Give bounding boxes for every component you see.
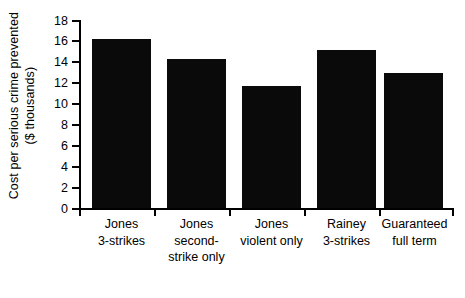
y-tick-label-12: 12 [54, 77, 68, 90]
y-tick-16: 16 [72, 40, 81, 42]
y-tick-14: 14 [72, 61, 81, 63]
y-tick-10: 10 [72, 103, 81, 105]
y-tick-2: 2 [72, 187, 81, 189]
y-tick-8: 8 [72, 124, 81, 126]
x-tick-1 [154, 208, 156, 216]
bar-jones-second-strike-only [167, 59, 226, 208]
bar-rainey-3-strikes [317, 50, 376, 208]
bar-guaranteed-full-term [384, 73, 443, 208]
plot-area: 0 2 4 6 8 10 12 14 16 18 [79, 20, 454, 210]
y-tick-label-6: 6 [61, 140, 68, 153]
y-tick-label-16: 16 [54, 35, 68, 48]
x-tick-2 [229, 208, 231, 216]
y-tick-6: 6 [72, 145, 81, 147]
y-tick-label-18: 18 [54, 15, 68, 28]
y-tick-4: 4 [72, 166, 81, 168]
x-label-line: full term [367, 233, 462, 250]
y-tick-label-10: 10 [54, 98, 68, 111]
x-tick-3 [304, 208, 306, 216]
y-tick-label-2: 2 [61, 182, 68, 195]
y-tick-12: 12 [72, 82, 81, 84]
x-label-guaranteed-full-term: Guaranteed full term [367, 216, 462, 249]
x-tick-5 [452, 208, 454, 216]
y-axis-title-line-2: ($ thousands) [23, 12, 39, 199]
bar-jones-violent-only [242, 86, 301, 208]
y-tick-18: 18 [72, 20, 81, 22]
bar-jones-3-strikes [92, 39, 151, 208]
x-label-line: Guaranteed [367, 216, 462, 233]
x-tick-0 [79, 208, 81, 216]
bar-chart-figure: Cost per serious crime prevented ($ thou… [0, 0, 465, 298]
y-tick-label-14: 14 [54, 56, 68, 69]
y-axis-line [79, 20, 81, 210]
y-tick-label-8: 8 [61, 119, 68, 132]
y-axis-title: Cost per serious crime prevented ($ thou… [0, 0, 46, 212]
x-tick-4 [379, 208, 381, 216]
y-tick-label-4: 4 [61, 161, 68, 174]
x-axis-line [79, 208, 454, 210]
y-axis-title-line-1: Cost per serious crime prevented [7, 12, 23, 199]
x-label-line: strike only [149, 249, 244, 266]
y-tick-label-0: 0 [61, 203, 68, 216]
